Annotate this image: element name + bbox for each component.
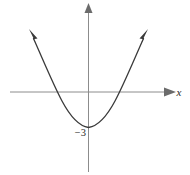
x-axis-label: x [176, 86, 182, 98]
plot-canvas: x −3 [0, 0, 190, 175]
y-axis-up-arrow-icon [85, 3, 93, 13]
curve-right-arrowhead-icon [140, 29, 149, 43]
curve-left-arrowhead-icon [29, 29, 38, 43]
vertex-value-label: −3 [75, 127, 86, 138]
x-axis-right-arrow-icon [164, 88, 176, 97]
parabola-figure: x −3 [0, 0, 190, 175]
